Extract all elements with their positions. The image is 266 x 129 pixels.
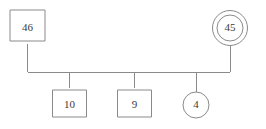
node-label-child-1: 10 bbox=[64, 98, 76, 110]
node-child-3[interactable]: 4 bbox=[183, 92, 209, 118]
node-label-parent-female: 45 bbox=[225, 21, 237, 33]
node-label-child-3: 4 bbox=[193, 98, 199, 110]
generation-children: 10 9 4 bbox=[53, 90, 210, 118]
node-child-2[interactable]: 9 bbox=[118, 90, 152, 117]
pedigree-diagram: 46 45 10 9 4 bbox=[0, 0, 266, 129]
pedigree-canvas: 46 45 10 9 4 bbox=[0, 0, 266, 129]
node-parent-male[interactable]: 46 bbox=[10, 10, 45, 41]
generation-parents: 46 45 bbox=[10, 10, 248, 46]
node-label-parent-male: 46 bbox=[22, 21, 34, 33]
connector-group bbox=[28, 44, 231, 93]
node-parent-female[interactable]: 45 bbox=[213, 11, 248, 46]
node-child-1[interactable]: 10 bbox=[53, 90, 87, 117]
node-label-child-2: 9 bbox=[132, 98, 138, 110]
